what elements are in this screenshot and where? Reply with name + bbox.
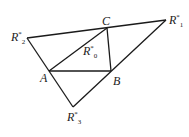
edge-R2-R3 (27, 38, 73, 107)
triangle-diagram (0, 0, 189, 137)
label-B: B (113, 75, 120, 87)
label-R0: R*0 (83, 45, 97, 60)
label-R1: R*1 (169, 14, 183, 29)
edge-C-B (107, 28, 111, 71)
label-A: A (40, 72, 47, 84)
label-R3: R*3 (67, 111, 81, 126)
edge-R1-R3 (73, 20, 166, 107)
label-C: C (102, 15, 110, 27)
label-R2: R*2 (11, 31, 25, 46)
